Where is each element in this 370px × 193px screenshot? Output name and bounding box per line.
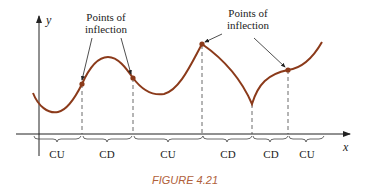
interval-label: CU (49, 148, 64, 160)
concavity-diagram: y x Points of inflection Points of infle… (0, 0, 370, 193)
annotation-right-line2: inflection (227, 19, 270, 31)
interval-label: CD (263, 148, 278, 160)
annotation-left-line2: inflection (85, 23, 128, 35)
annotation-left-line1: Points of (86, 11, 126, 23)
interval-label: CD (99, 148, 114, 160)
interval-label: CU (160, 148, 175, 160)
interval-label: CD (220, 148, 235, 160)
y-axis-label: y (45, 13, 52, 27)
figure-caption: FIGURE 4.21 (152, 174, 218, 186)
annotation-right-line1: Points of (228, 7, 268, 19)
inflection-points (79, 41, 290, 86)
interval-label: CU (299, 148, 314, 160)
function-curve (33, 42, 322, 112)
x-axis-label: x (342, 140, 349, 154)
interval-braces (34, 136, 324, 142)
